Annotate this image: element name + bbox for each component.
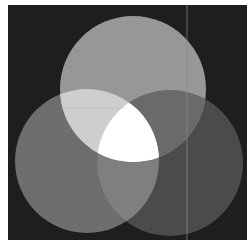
venn-photo bbox=[0, 0, 252, 242]
three-circle-light-mixing-figure bbox=[0, 0, 252, 242]
